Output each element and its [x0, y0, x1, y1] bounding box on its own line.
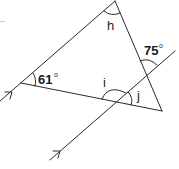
angle-arc-h: [104, 11, 120, 15]
degree-symbol-61: o: [54, 71, 58, 78]
angle-label-i: i: [103, 75, 106, 90]
stray-mark: ..: [0, 14, 5, 24]
triangle-left-side: [0, 1, 115, 101]
angle-label-h: h: [107, 18, 114, 33]
geometry-diagram: .. h 61 o 75 o i j: [0, 0, 179, 169]
angle-arc-75: [140, 60, 157, 65]
triangle-bottom-side: [21, 83, 162, 111]
angle-label-75: 75: [144, 43, 158, 58]
angle-arc-61: [33, 73, 36, 86]
transversal-line: [50, 51, 175, 160]
degree-symbol-75: o: [159, 42, 163, 49]
angle-label-j: j: [136, 88, 140, 103]
angle-label-61: 61: [38, 72, 52, 87]
angle-arc-i: [102, 90, 126, 99]
angle-arc-j: [128, 92, 132, 105]
